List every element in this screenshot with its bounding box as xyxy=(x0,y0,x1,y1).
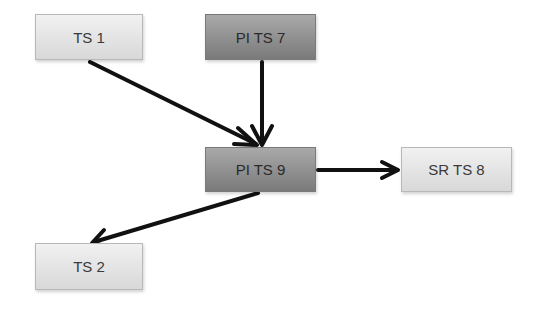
edge-pits9-to-ts2 xyxy=(92,193,258,247)
node-label: TS 1 xyxy=(73,29,105,46)
node-label: PI TS 7 xyxy=(236,29,286,46)
edge-pits7-to-pits9 xyxy=(252,62,272,145)
edge-ts1-to-pits9 xyxy=(90,62,257,145)
node-pits9: PI TS 9 xyxy=(205,147,316,192)
node-pits7: PI TS 7 xyxy=(205,14,316,60)
node-label: PI TS 9 xyxy=(236,161,286,178)
node-label: TS 2 xyxy=(73,258,105,275)
edge-pits9-to-srts8 xyxy=(318,162,398,178)
node-ts1: TS 1 xyxy=(35,14,143,60)
node-ts2: TS 2 xyxy=(35,243,143,290)
node-label: SR TS 8 xyxy=(428,161,484,178)
node-srts8: SR TS 8 xyxy=(401,147,512,192)
